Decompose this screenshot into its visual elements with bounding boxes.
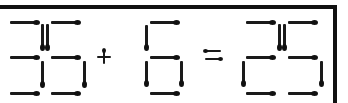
match-head-icon: [311, 91, 318, 96]
matchstick[interactable]: [10, 92, 37, 95]
match-head-icon: [33, 20, 40, 25]
matchstick[interactable]: [83, 61, 86, 85]
match-head-icon: [33, 55, 40, 60]
matchstick[interactable]: [51, 21, 78, 24]
match-head-icon: [173, 20, 180, 25]
match-head-icon: [173, 91, 180, 96]
match-head-icon: [33, 91, 40, 96]
matchstick[interactable]: [278, 24, 281, 48]
match-head-icon: [144, 80, 149, 87]
matchstick[interactable]: [246, 92, 273, 95]
match-head-icon: [40, 81, 45, 88]
match-head-icon: [319, 80, 324, 87]
matchstick[interactable]: [51, 56, 78, 59]
matchstick[interactable]: [46, 24, 49, 48]
matchstick[interactable]: [150, 56, 177, 59]
matchstick[interactable]: [288, 56, 315, 59]
match-head-icon: [311, 20, 318, 25]
match-head-icon: [82, 81, 87, 88]
match-head-icon: [173, 55, 180, 60]
match-head-icon: [179, 80, 184, 87]
matchstick[interactable]: [41, 61, 44, 85]
matchstick[interactable]: [145, 61, 148, 84]
match-head-icon: [203, 49, 208, 53]
matchstick[interactable]: [150, 92, 177, 95]
matchstick[interactable]: [246, 56, 273, 59]
matchstick[interactable]: [145, 25, 148, 48]
matchstick[interactable]: [206, 50, 221, 52]
matchstick[interactable]: [205, 58, 220, 60]
matchstick[interactable]: [103, 51, 105, 64]
matchstick[interactable]: [246, 21, 273, 24]
match-head-icon: [74, 20, 81, 25]
match-head-icon: [74, 55, 81, 60]
match-head-icon: [45, 44, 50, 51]
match-head-icon: [218, 57, 223, 61]
match-head-icon: [144, 44, 149, 51]
match-head-icon: [282, 44, 287, 51]
matchstick[interactable]: [150, 21, 177, 24]
match-head-icon: [311, 55, 318, 60]
matchstick[interactable]: [288, 92, 315, 95]
match-head-icon: [74, 91, 81, 96]
match-head-icon: [269, 20, 276, 25]
match-head-icon: [269, 55, 276, 60]
matchstick[interactable]: [288, 21, 315, 24]
matchstick[interactable]: [10, 21, 37, 24]
matchstick[interactable]: [242, 61, 245, 84]
matchstick[interactable]: [41, 24, 44, 48]
puzzle-frame-top: [0, 5, 337, 9]
matchstick[interactable]: [320, 61, 323, 84]
match-head-icon: [269, 91, 276, 96]
matchstick[interactable]: [283, 24, 286, 48]
match-head-icon: [241, 80, 246, 87]
puzzle-frame-right: [333, 5, 337, 103]
match-head-icon: [102, 48, 106, 53]
matchstick[interactable]: [51, 92, 78, 95]
matchstick[interactable]: [10, 56, 37, 59]
matchstick[interactable]: [180, 61, 183, 84]
